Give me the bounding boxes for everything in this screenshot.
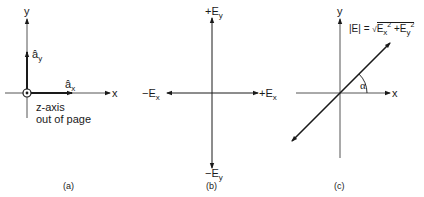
panel-a-caption: (a) (63, 181, 74, 191)
panel-c-x-label: x (392, 88, 398, 99)
panel-a-y-label: y (24, 6, 30, 17)
panel-c-y-label: y (337, 6, 343, 17)
panel-c-formula: |E| = √Ex2 +Ey2 (349, 21, 414, 37)
panel-c-caption: (c) (334, 181, 345, 191)
panel-a-x-label: x (112, 88, 118, 99)
panel-b-plus-ex: +Ex (259, 88, 277, 102)
panel-c-angle-alpha: α (360, 80, 366, 91)
panel-c-axes (292, 19, 390, 158)
panel-a-z-note-2: out of page (36, 114, 91, 125)
panel-a-z-note-1: z-axis (36, 102, 65, 113)
panel-b-caption: (b) (206, 181, 217, 191)
panel-b-axes (167, 18, 258, 168)
panel-b-plus-ey: +Ey (205, 6, 223, 20)
panel-b-minus-ex: −Ex (142, 88, 160, 102)
panel-b-minus-ey: −Ey (205, 168, 223, 182)
panel-a-unit-x: âx (65, 79, 75, 93)
panel-a-unit-y: ây (32, 49, 42, 63)
